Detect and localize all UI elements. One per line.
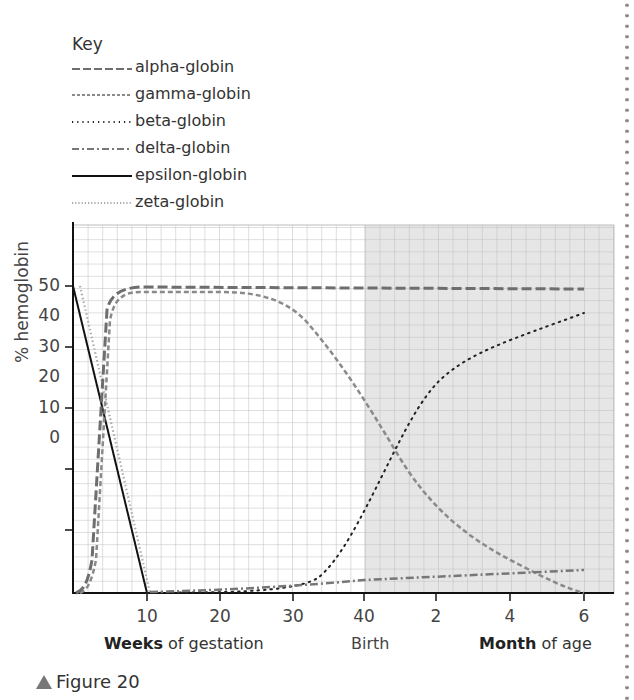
key-swatches	[72, 69, 132, 203]
y-tick-20: 20	[30, 366, 60, 386]
y-tick-50: 50	[30, 275, 60, 295]
x-tick-40: 40	[344, 606, 384, 626]
legend-item-beta-globin: beta-globin	[135, 111, 226, 130]
hemoglobin-chart	[0, 0, 634, 700]
y-axis-label: % hemoglobin	[12, 232, 32, 372]
x-tick-4: 4	[490, 606, 530, 626]
x-caption-month: Month of age	[479, 634, 592, 653]
page-dotted-border	[624, 0, 630, 700]
x-tick-20: 20	[200, 606, 240, 626]
x-tick-30: 30	[273, 606, 313, 626]
legend-item-alpha-globin: alpha-globin	[135, 57, 234, 76]
legend-item-epsilon-globin: epsilon-globin	[135, 165, 247, 184]
grid	[73, 225, 614, 593]
y-tick-0: 0	[30, 427, 60, 447]
x-caption-birth: Birth	[351, 634, 389, 653]
page-corner-mark	[585, 0, 615, 5]
x-caption-weeks: Weeks of gestation	[104, 634, 264, 653]
y-tick-10: 10	[30, 397, 60, 417]
y-tick-40: 40	[30, 305, 60, 325]
y-tick-30: 30	[30, 336, 60, 356]
legend-item-zeta-globin: zeta-globin	[135, 192, 224, 211]
x-tick-6: 6	[564, 606, 604, 626]
figure-caption: Figure 20	[36, 671, 140, 692]
x-tick-2: 2	[416, 606, 456, 626]
x-tick-10: 10	[127, 606, 167, 626]
triangle-icon	[36, 675, 52, 689]
y-tick-marks	[65, 286, 73, 530]
legend-item-delta-globin: delta-globin	[135, 138, 230, 157]
legend-item-gamma-globin: gamma-globin	[135, 84, 251, 103]
key-title: Key	[72, 34, 103, 54]
x-tick-marks	[147, 593, 584, 601]
